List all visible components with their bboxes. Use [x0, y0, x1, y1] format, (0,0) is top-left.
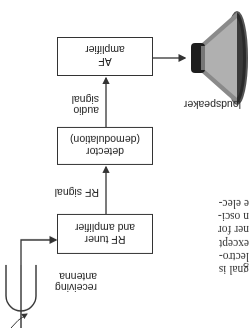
af-block-line-1: AF: [98, 57, 111, 69]
detector-block-line-1: detector: [86, 146, 124, 158]
receiver-block-diagram: RF tuner and amplifier detector (demodul…: [0, 0, 249, 328]
audio-signal-line-2: signal: [72, 94, 99, 105]
body-text-line: ner for: [218, 223, 249, 236]
rf-block-line-2: and amplifier: [75, 222, 135, 234]
audio-signal-label: audio signal: [72, 94, 99, 116]
detector-block: detector (demodulation): [57, 127, 153, 165]
antenna-label: receiving antenna: [55, 271, 97, 293]
loudspeaker-icon: [191, 12, 247, 104]
body-text-line: n osci-: [218, 210, 249, 223]
body-text-line: e elec-: [218, 197, 249, 210]
af-amplifier-block: AF amplifier: [57, 37, 153, 76]
antenna-to-rf-arrow: [21, 240, 56, 265]
body-text-line: gnal is: [218, 263, 249, 276]
loudspeaker-label: loudspeaker: [184, 99, 241, 110]
rf-tuner-block: RF tuner and amplifier: [57, 214, 153, 254]
body-text-line: except: [218, 236, 249, 249]
body-text-line: lectro-: [218, 250, 249, 263]
rf-block-line-1: RF tuner: [85, 234, 126, 246]
af-block-line-2: amplifier: [85, 45, 125, 57]
audio-signal-line-1: audio: [72, 105, 99, 116]
partial-body-text: gnal is lectro- except ner for n osci- e…: [218, 197, 249, 276]
rf-signal-label: RF signal: [55, 187, 99, 198]
antenna-label-line-1: receiving: [55, 282, 97, 293]
antenna-pointer-arrow: [11, 314, 27, 328]
antenna-label-line-2: antenna: [55, 271, 97, 282]
detector-block-line-2: (demodulation): [70, 134, 140, 146]
